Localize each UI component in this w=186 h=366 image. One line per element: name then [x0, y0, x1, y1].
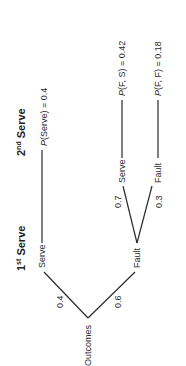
prob-fault-fault: 0.3	[154, 195, 164, 208]
node-first-fault: Fault	[132, 247, 142, 268]
prob-serve: 0.4	[55, 295, 65, 308]
tree-diagram: 1st Serve 2nd Serve Outcomes Serve Fault…	[0, 0, 186, 366]
result-fault-serve: P(F, S) = 0.42	[117, 41, 127, 96]
node-second-fault: Fault	[153, 162, 163, 183]
prob-fault-serve: 0.7	[113, 195, 123, 208]
node-second-serve: Serve	[117, 159, 127, 183]
node-first-serve: Serve	[37, 244, 47, 268]
edge-root-to-fault	[88, 272, 135, 318]
result-serve: P(Serve) = 0.4	[39, 88, 49, 146]
node-outcomes: Outcomes	[83, 324, 93, 366]
edge-root-to-serve	[44, 272, 88, 318]
prob-fault: 0.6	[113, 295, 123, 308]
result-fault-fault: P(F, F) = 0.18	[153, 41, 163, 96]
edge-fault-to-fault	[137, 186, 152, 243]
edge-fault-to-serve	[123, 186, 137, 243]
header-first-serve: 1st Serve	[15, 226, 27, 271]
header-second-serve: 2nd Serve	[15, 108, 27, 156]
